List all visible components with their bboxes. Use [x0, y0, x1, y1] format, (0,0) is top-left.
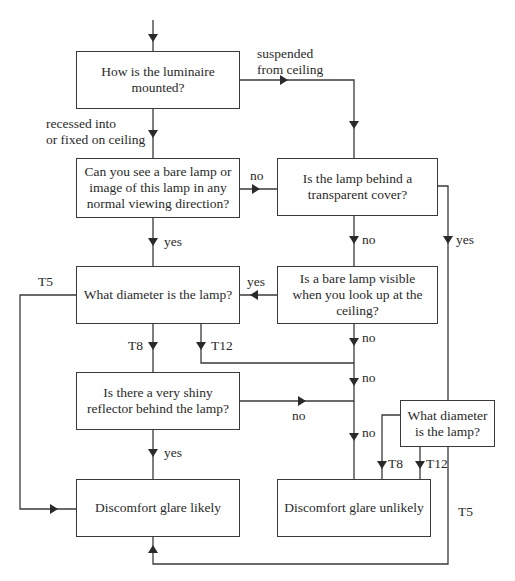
label-look-up-no: no	[362, 330, 376, 346]
node-see-bare-text: Can you see a bare lamp or image of this…	[83, 164, 233, 212]
node-diameter-right-text: What diameter is the lamp?	[404, 408, 491, 440]
label-transparent-no: no	[362, 232, 376, 248]
label-unlikely-in-no: no	[362, 425, 376, 441]
node-see-bare: Can you see a bare lamp or image of this…	[76, 158, 240, 218]
node-glare-likely-text: Discomfort glare likely	[95, 500, 221, 516]
label-diameter-right-t12: T12	[426, 456, 448, 472]
node-glare-unlikely: Discomfort glare unlikely	[277, 479, 431, 537]
node-reflector-text: Is there a very shiny reflector behind t…	[83, 385, 233, 417]
node-diameter-right: What diameter is the lamp?	[400, 400, 495, 447]
glare-flowchart: How is the luminaire mounted? Can you se…	[0, 0, 515, 581]
node-look-up: Is a bare lamp visible when you look up …	[277, 266, 438, 324]
node-glare-unlikely-text: Discomfort glare unlikely	[284, 500, 423, 516]
label-diameter-right-t8: T8	[388, 456, 403, 472]
label-diameter-left-t12: T12	[211, 338, 233, 354]
node-reflector: Is there a very shiny reflector behind t…	[76, 372, 240, 430]
label-transparent-yes: yes	[456, 232, 474, 248]
node-glare-likely: Discomfort glare likely	[76, 479, 240, 537]
node-transparent-text: Is the lamp behind a transparent cover?	[284, 171, 431, 203]
label-merge-no: no	[362, 370, 376, 386]
node-diameter-left: What diameter is the lamp?	[76, 266, 240, 324]
label-reflector-yes: yes	[164, 445, 182, 461]
label-look-up-yes: yes	[247, 274, 265, 290]
label-suspended: suspended from ceiling	[257, 46, 323, 78]
node-diameter-left-text: What diameter is the lamp?	[84, 287, 232, 303]
label-recessed: recessed into or fixed on ceiling	[46, 116, 145, 148]
node-mount: How is the luminaire mounted?	[76, 51, 240, 109]
node-look-up-text: Is a bare lamp visible when you look up …	[284, 271, 431, 319]
label-see-bare-yes: yes	[164, 234, 182, 250]
label-diameter-right-t5: T5	[458, 504, 473, 520]
label-reflector-no: no	[292, 408, 306, 424]
node-mount-text: How is the luminaire mounted?	[83, 64, 233, 96]
label-diameter-left-t5: T5	[38, 274, 53, 290]
label-see-bare-no: no	[250, 168, 264, 184]
node-transparent: Is the lamp behind a transparent cover?	[277, 158, 438, 216]
label-diameter-left-t8: T8	[128, 338, 143, 354]
